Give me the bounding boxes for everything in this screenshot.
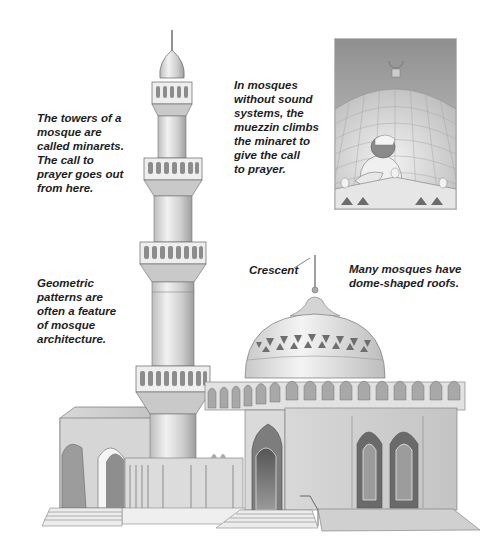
caption-line: Geometric — [37, 276, 116, 290]
caption-line: In mosques — [234, 78, 319, 92]
prayer-hall — [211, 408, 457, 510]
caption-line: The call to — [37, 153, 124, 167]
caption-muezzin: In mosques without sound systems, the mu… — [234, 78, 319, 176]
caption-line: without sound — [234, 92, 319, 106]
caption-line: architecture. — [37, 332, 116, 346]
caption-line: systems, the — [234, 106, 319, 120]
caption-line: the minaret to — [234, 134, 319, 148]
caption-minarets: The towers of a mosque are called minare… — [37, 111, 124, 195]
minaret — [136, 28, 210, 464]
caption-line: called minarets. — [37, 139, 124, 153]
label-crescent: Crescent — [249, 263, 298, 277]
caption-geometric-patterns: Geometric patterns are often a feature o… — [37, 276, 116, 346]
caption-line: muezzin climbs — [234, 120, 319, 134]
muezzin-scene — [335, 39, 456, 209]
caption-line: mosque are — [37, 125, 124, 139]
caption-line: give the call — [234, 148, 319, 162]
parapet — [205, 381, 465, 410]
caption-line: to prayer. — [234, 162, 319, 176]
caption-line: prayer goes out — [37, 167, 124, 181]
platform — [318, 509, 480, 531]
caption-line: Crescent — [249, 263, 298, 277]
left-steps — [42, 508, 122, 526]
caption-line: often a feature — [37, 304, 116, 318]
muezzin-inset-picture — [334, 38, 457, 210]
caption-line: patterns are — [37, 290, 116, 304]
caption-dome-roofs: Many mosques have dome-shaped roofs. — [349, 262, 461, 290]
caption-line: The towers of a — [37, 111, 124, 125]
caption-line: dome-shaped roofs. — [349, 276, 461, 290]
front-wall — [122, 458, 247, 524]
caption-line: Many mosques have — [349, 262, 461, 276]
caption-line: of mosque — [37, 318, 116, 332]
caption-line: from here. — [37, 181, 124, 195]
